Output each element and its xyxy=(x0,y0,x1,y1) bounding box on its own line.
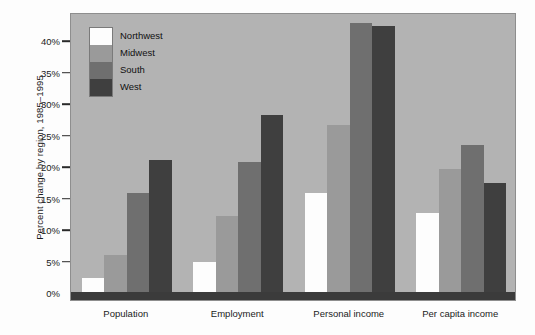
bar xyxy=(238,162,261,292)
bar xyxy=(439,169,462,292)
bar xyxy=(127,193,150,292)
bar xyxy=(104,255,127,292)
bar xyxy=(216,216,239,292)
y-axis-tick-label: 5% xyxy=(26,256,60,267)
y-axis-tick-label: 25% xyxy=(26,130,60,141)
bar xyxy=(416,213,439,292)
y-axis-tick-mark xyxy=(62,198,70,200)
x-axis-category-label: Per capita income xyxy=(422,308,498,319)
y-axis-tick-labels: 0%5%10%15%20%25%30%35%40% xyxy=(22,0,60,335)
y-axis-tick-mark xyxy=(62,135,70,137)
bar xyxy=(261,115,284,292)
bar xyxy=(149,160,172,292)
bar xyxy=(82,278,105,292)
x-axis-category-label: Personal income xyxy=(313,308,384,319)
y-axis-tick-label: 20% xyxy=(26,162,60,173)
legend-labels: NorthwestMidwestSouthWest xyxy=(120,27,163,95)
x-axis-category-label: Population xyxy=(103,308,148,319)
bar xyxy=(461,145,484,292)
chart-figure: Percent change by region, 1985–1995 0%5%… xyxy=(0,0,535,335)
legend-label: West xyxy=(120,78,163,95)
legend-swatch xyxy=(90,79,112,96)
legend-swatches xyxy=(89,27,113,97)
y-axis-tick-label: 30% xyxy=(26,99,60,110)
legend-swatch xyxy=(90,62,112,79)
legend-label: South xyxy=(120,61,163,78)
y-axis-tick-mark xyxy=(62,166,70,168)
y-axis-tick-label: 0% xyxy=(26,288,60,299)
plot-area: NorthwestMidwestSouthWest xyxy=(70,13,516,301)
y-axis-tick-label: 40% xyxy=(26,36,60,47)
y-axis-tick-label: 35% xyxy=(26,67,60,78)
y-axis-tick-mark xyxy=(62,261,70,263)
x-axis-category-label: Employment xyxy=(211,308,264,319)
y-axis-tick-mark xyxy=(62,41,70,43)
bar xyxy=(484,183,507,292)
legend-label: Midwest xyxy=(120,44,163,61)
y-axis-tick-label: 15% xyxy=(26,193,60,204)
bar xyxy=(305,193,328,292)
y-axis-tick-mark xyxy=(62,103,70,105)
bar xyxy=(327,125,350,292)
bar xyxy=(372,26,395,292)
legend-label: Northwest xyxy=(120,27,163,44)
legend-swatch xyxy=(90,28,112,45)
y-axis-tick-mark xyxy=(62,229,70,231)
y-axis-tick-label: 10% xyxy=(26,225,60,236)
bar xyxy=(193,262,216,292)
axis-baseline xyxy=(71,292,515,300)
bar xyxy=(350,23,373,292)
legend-swatch xyxy=(90,45,112,62)
y-axis-tick-mark xyxy=(62,72,70,74)
legend: NorthwestMidwestSouthWest xyxy=(89,27,163,97)
